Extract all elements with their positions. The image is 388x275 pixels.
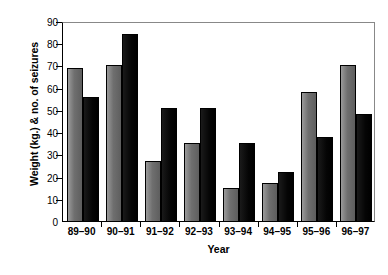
bar-weight: [262, 183, 278, 221]
bar-weight: [145, 161, 161, 221]
bar-weight: [67, 68, 83, 221]
bar-seizures: [161, 108, 177, 221]
y-tick-label: 20: [32, 172, 58, 183]
bar-seizures: [317, 137, 333, 221]
bar-group: [340, 23, 372, 221]
y-tick-label: 90: [32, 17, 58, 28]
bar-weight: [223, 188, 239, 221]
bar-group: [184, 23, 216, 221]
y-tick-label: 40: [32, 128, 58, 139]
bar-group: [145, 23, 177, 221]
bar-group: [262, 23, 294, 221]
plot-area: [62, 22, 375, 222]
x-tick-mark: [101, 222, 102, 227]
x-tick-mark: [219, 222, 220, 227]
x-tick-mark: [258, 222, 259, 227]
y-tick-label: 10: [32, 194, 58, 205]
bar-weight: [301, 92, 317, 221]
bar-seizures: [239, 143, 255, 221]
bar-seizures: [356, 114, 372, 221]
x-tick-mark: [140, 222, 141, 227]
bar-weight: [340, 65, 356, 221]
x-axis-title: Year: [62, 243, 375, 255]
x-tick-mark: [336, 222, 337, 227]
x-tick-label: 96–97: [327, 226, 383, 237]
y-tick-label: 50: [32, 105, 58, 116]
y-tick-label: 60: [32, 83, 58, 94]
x-tick-mark: [297, 222, 298, 227]
y-tick-label: 30: [32, 150, 58, 161]
bar-group: [106, 23, 138, 221]
bar-seizures: [278, 172, 294, 221]
bar-weight: [106, 65, 122, 221]
y-tick-label: 80: [32, 39, 58, 50]
x-tick-mark: [179, 222, 180, 227]
y-tick-label: 70: [32, 61, 58, 72]
bar-seizures: [200, 108, 216, 221]
bar-seizures: [83, 97, 99, 221]
bar-chart: Weight (kg.) & no. of seizures 010203040…: [0, 0, 388, 275]
bar-weight: [184, 143, 200, 221]
bar-group: [223, 23, 255, 221]
bar-seizures: [122, 34, 138, 221]
bar-group: [301, 23, 333, 221]
bar-group: [67, 23, 99, 221]
